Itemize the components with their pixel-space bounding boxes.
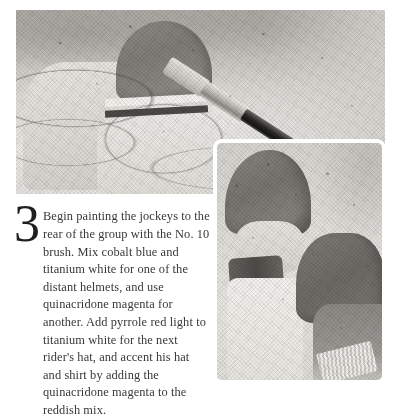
step-body-text: Begin painting the jockeys to the rear o… <box>43 208 210 418</box>
inset-photo-canvas <box>217 143 382 380</box>
inset-shirt <box>227 278 303 380</box>
inset-photo <box>213 139 386 384</box>
step-number: 3 <box>14 198 40 250</box>
